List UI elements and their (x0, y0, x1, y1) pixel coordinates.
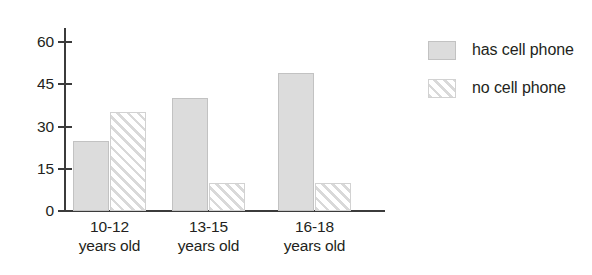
plot-area: 015304560 10-12years old13-15years old16… (0, 0, 410, 275)
y-tick-label-45: 45 (24, 76, 54, 92)
legend-label-no-cell-phone: no cell phone (472, 78, 566, 98)
y-tick-15 (58, 168, 72, 170)
y-tick-0 (58, 210, 72, 212)
x-axis-label-line-1: 13-15 (149, 217, 269, 236)
y-tick-60 (58, 41, 72, 43)
x-axis-label-group-2: 13-15years old (149, 217, 269, 255)
y-tick-label-15: 15 (24, 161, 54, 177)
x-axis-label-line-2: years old (255, 236, 375, 255)
solid-gray-swatch (428, 41, 456, 60)
hatched-swatch (428, 79, 456, 98)
y-tick-45 (58, 83, 72, 85)
bar-no-cell-phone-group-3 (315, 183, 351, 211)
bar-has-cell-phone-group-2 (172, 98, 208, 211)
x-axis-label-line-1: 16-18 (255, 217, 375, 236)
y-tick-label-wrap-30: 30 (18, 119, 54, 135)
y-tick-30 (58, 126, 72, 128)
y-tick-label-wrap-15: 15 (18, 161, 54, 177)
x-axis-label-group-3: 16-18years old (255, 217, 375, 255)
bar-has-cell-phone-group-3 (278, 73, 314, 211)
legend-label-has-cell-phone: has cell phone (472, 40, 574, 60)
bar-no-cell-phone-group-1 (110, 112, 146, 211)
legend-item-no-cell-phone: no cell phone (428, 78, 592, 116)
y-tick-label-wrap-60: 60 (18, 34, 54, 50)
bar-chart: 015304560 10-12years old13-15years old16… (0, 0, 592, 275)
legend-item-has-cell-phone: has cell phone (428, 40, 592, 78)
bar-has-cell-phone-group-1 (73, 141, 109, 211)
y-tick-label-30: 30 (24, 119, 54, 135)
y-tick-label-60: 60 (24, 34, 54, 50)
x-axis-label-line-2: years old (149, 236, 269, 255)
chart-legend: has cell phone no cell phone (428, 40, 592, 116)
y-tick-label-wrap-45: 45 (18, 76, 54, 92)
y-axis-line (64, 28, 66, 212)
bar-no-cell-phone-group-2 (209, 183, 245, 211)
